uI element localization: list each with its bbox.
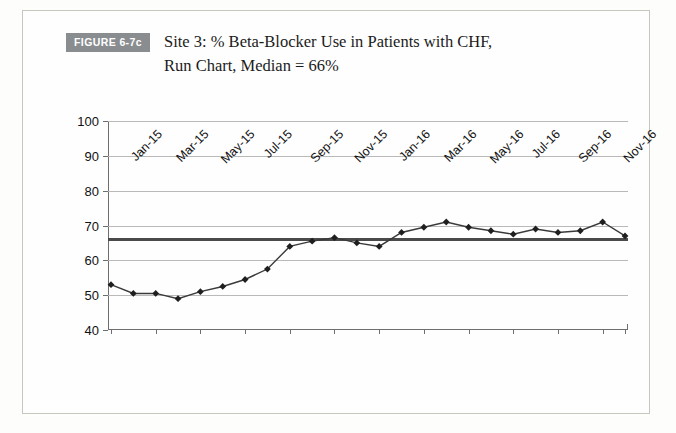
data-point-marker	[599, 219, 606, 226]
y-tick-mark-40	[103, 330, 108, 331]
figure-page: FIGURE 6-7c Site 3: % Beta-Blocker Use i…	[0, 0, 676, 433]
data-point-marker	[510, 231, 517, 238]
data-point-marker	[219, 283, 226, 290]
y-axis-label-50: 50	[85, 288, 99, 303]
figure-number-badge: FIGURE 6-7c	[66, 33, 150, 52]
x-tick-mark-Jul-16	[513, 330, 514, 334]
x-tick-mark-Mar-16	[424, 330, 425, 334]
data-point-marker	[130, 290, 137, 297]
x-tick-mark-end	[625, 330, 626, 334]
data-point-marker	[242, 276, 249, 283]
y-axis-label-100: 100	[77, 114, 99, 129]
data-point-marker	[577, 227, 584, 234]
data-point-marker	[420, 224, 427, 231]
x-tick-mark-Mar-15	[156, 330, 157, 334]
data-point-marker	[353, 240, 360, 247]
y-axis-label-40: 40	[85, 323, 99, 338]
x-tick-mark-Jul-15	[245, 330, 246, 334]
y-axis-label-80: 80	[85, 183, 99, 198]
figure-caption-row: FIGURE 6-7c Site 3: % Beta-Blocker Use i…	[66, 30, 492, 78]
data-point-marker	[175, 295, 182, 302]
data-point-marker	[309, 238, 316, 245]
data-series-beta-blocker	[108, 121, 628, 330]
x-tick-mark-Nov-16	[603, 330, 604, 334]
x-tick-mark-Sep-16	[558, 330, 559, 334]
plot-area: 100908070605040Jan-15Mar-15May-15Jul-15S…	[108, 121, 628, 330]
x-tick-mark-Nov-15	[334, 330, 335, 334]
y-axis-label-90: 90	[85, 148, 99, 163]
data-point-marker	[622, 233, 629, 240]
data-point-marker	[465, 224, 472, 231]
data-point-marker	[197, 288, 204, 295]
data-point-marker	[331, 234, 338, 241]
series-line	[111, 222, 625, 299]
x-tick-mark-May-16	[469, 330, 470, 334]
y-axis-label-70: 70	[85, 218, 99, 233]
data-point-marker	[108, 281, 115, 288]
data-point-marker	[532, 226, 539, 233]
data-point-marker	[152, 290, 159, 297]
y-axis-label-60: 60	[85, 253, 99, 268]
x-tick-mark-Jan-16	[379, 330, 380, 334]
run-chart: 100908070605040Jan-15Mar-15May-15Jul-15S…	[60, 108, 632, 408]
figure-caption-text: Site 3: % Beta-Blocker Use in Patients w…	[164, 30, 492, 78]
x-tick-mark-Sep-15	[290, 330, 291, 334]
data-point-marker	[555, 229, 562, 236]
data-point-marker	[376, 243, 383, 250]
data-point-marker	[488, 227, 495, 234]
x-tick-mark-May-15	[200, 330, 201, 334]
data-point-marker	[443, 219, 450, 226]
x-tick-mark-Jan-15	[111, 330, 112, 334]
data-point-marker	[398, 229, 405, 236]
